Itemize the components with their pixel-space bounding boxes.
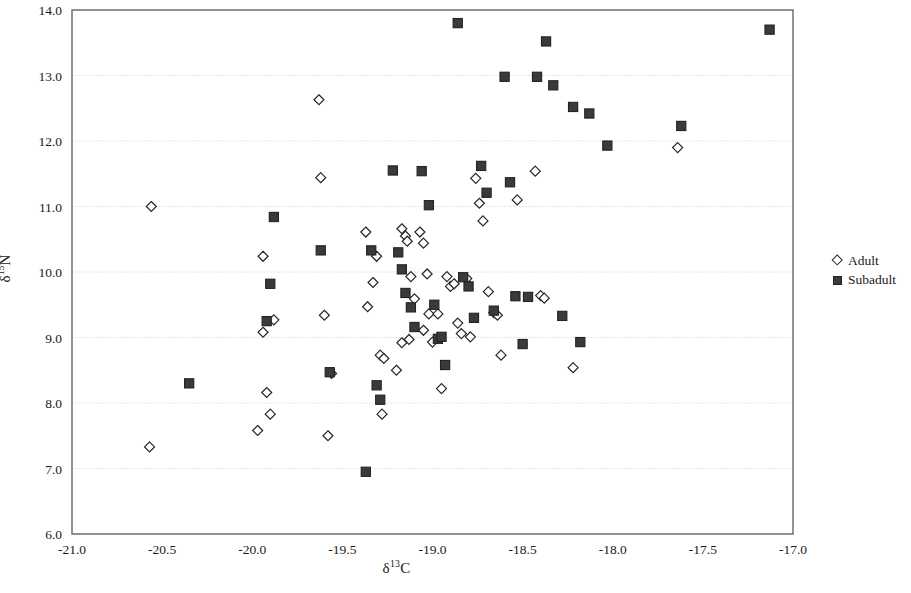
svg-text:-18.5: -18.5 [509,542,537,557]
svg-text:12.0: 12.0 [38,134,62,149]
y-axis-label: δ15N [0,255,14,283]
legend-item-adult: Adult [831,251,911,270]
x-axis-label: δ13C [0,560,793,577]
svg-text:-17.0: -17.0 [779,542,807,557]
filled-square-marker-icon [831,273,844,286]
svg-text:14.0: 14.0 [38,3,62,18]
svg-text:6.0: 6.0 [45,527,62,542]
legend-label-subadult: Subadult [848,272,896,288]
svg-text:8.0: 8.0 [45,396,62,411]
open-diamond-marker-icon [831,254,844,267]
gridlines [72,76,793,469]
plot-canvas: -21.0-20.5-20.0-19.5-19.0-18.5-18.0-17.5… [0,0,911,593]
svg-text:-19.0: -19.0 [418,542,446,557]
svg-text:7.0: 7.0 [45,462,62,477]
svg-text:9.0: 9.0 [45,331,62,346]
svg-text:-20.5: -20.5 [148,542,176,557]
svg-text:-18.0: -18.0 [599,542,627,557]
svg-text:11.0: 11.0 [39,200,62,215]
legend: Adult Subadult [831,251,911,289]
series-adult-points [145,95,683,452]
svg-text:13.0: 13.0 [38,69,62,84]
scatter-chart-figure: -21.0-20.5-20.0-19.5-19.0-18.5-18.0-17.5… [0,0,911,593]
svg-text:-19.5: -19.5 [328,542,356,557]
y-axis-label-wrap: δ15N [0,240,52,300]
series-subadult-points [185,19,775,477]
x-tick-labels: -21.0-20.5-20.0-19.5-19.0-18.5-18.0-17.5… [58,542,807,557]
svg-text:-20.0: -20.0 [238,542,266,557]
legend-item-subadult: Subadult [831,270,911,289]
svg-text:-17.5: -17.5 [689,542,717,557]
legend-label-adult: Adult [848,253,879,269]
svg-text:-21.0: -21.0 [58,542,86,557]
